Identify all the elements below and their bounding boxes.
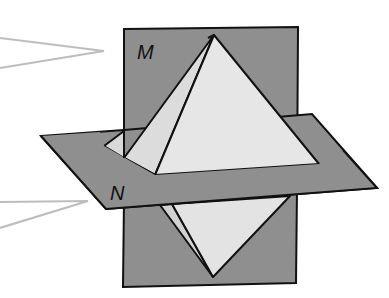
label-plane-m: M bbox=[137, 41, 154, 63]
callout-plane-n bbox=[0, 201, 88, 228]
diagram-canvas: M N bbox=[0, 0, 389, 298]
callout-plane-m bbox=[0, 38, 104, 68]
label-plane-n: N bbox=[110, 182, 125, 204]
